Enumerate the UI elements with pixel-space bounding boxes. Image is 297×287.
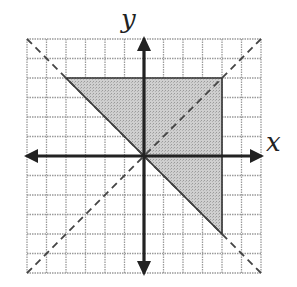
y-axis-bottom-arrow-icon bbox=[137, 261, 151, 276]
x-axis-left-arrow-icon bbox=[24, 149, 38, 163]
x-axis-right-arrow-icon bbox=[250, 149, 264, 163]
x-axis-label: x bbox=[266, 127, 281, 157]
y-axis-top-arrow-icon bbox=[137, 36, 151, 51]
y-axis-label: y bbox=[120, 4, 136, 34]
coordinate-plane: y x bbox=[0, 0, 297, 287]
